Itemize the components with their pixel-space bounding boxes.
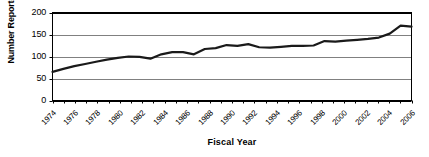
data-series-line (53, 26, 412, 72)
x-axis-title: Fiscal Year (52, 137, 412, 147)
gridlines (53, 14, 412, 102)
plot-area (0, 0, 429, 157)
plot-frame (53, 13, 412, 101)
line-chart: Number Reported 050100150200 19741976197… (0, 0, 429, 157)
